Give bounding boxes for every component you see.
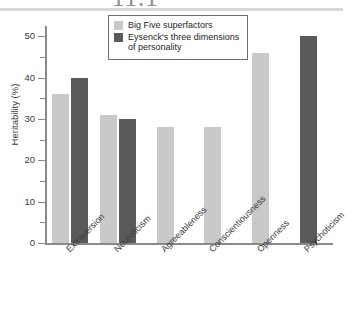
legend-item: Big Five superfactors xyxy=(114,20,242,31)
y-tick-major xyxy=(38,160,45,161)
y-tick-label: 40 xyxy=(9,73,35,83)
y-tick-major xyxy=(38,202,45,203)
bar-big-five xyxy=(204,127,221,243)
legend-label: Big Five superfactors xyxy=(128,20,213,31)
legend-label: Eysenck's three dimensions of personalit… xyxy=(128,32,242,53)
y-tick-major xyxy=(38,119,45,120)
bar-big-five xyxy=(252,53,269,243)
legend-swatch-dark-icon xyxy=(114,33,123,42)
y-tick-label: 10 xyxy=(9,197,35,207)
bar-eysenck xyxy=(300,36,317,243)
y-tick-major xyxy=(38,36,45,37)
y-tick-minor xyxy=(40,140,45,141)
plot-area xyxy=(46,28,332,243)
y-tick-minor xyxy=(40,222,45,223)
y-tick-minor xyxy=(40,181,45,182)
y-tick-label: 50 xyxy=(9,31,35,41)
y-tick-label: 0 xyxy=(9,238,35,248)
y-tick-label: 30 xyxy=(9,114,35,124)
bar-chart: Heritability (%) 01020304050 Extraversio… xyxy=(0,11,343,315)
x-axis-line xyxy=(45,243,333,245)
y-tick-major xyxy=(38,243,45,244)
legend-swatch-light-icon xyxy=(114,21,123,30)
bar-big-five xyxy=(52,94,69,243)
legend-item: Eysenck's three dimensions of personalit… xyxy=(114,32,242,53)
bar-big-five xyxy=(100,115,117,243)
y-tick-label: 20 xyxy=(9,155,35,165)
bar-eysenck xyxy=(71,78,88,243)
bar-big-five xyxy=(157,127,174,243)
figure-number-band: 11.1 xyxy=(0,0,343,11)
chart-legend: Big Five superfactors Eysenck's three di… xyxy=(108,15,248,60)
y-tick-minor xyxy=(40,57,45,58)
y-tick-minor xyxy=(40,98,45,99)
y-tick-major xyxy=(38,78,45,79)
